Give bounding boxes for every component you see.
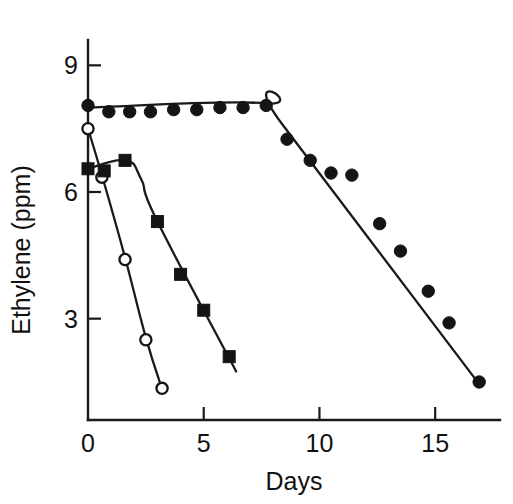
- data-point-filled-circles: [144, 106, 156, 118]
- y-tick-label-9: 9: [64, 51, 78, 79]
- data-point-filled-circles: [260, 99, 272, 111]
- data-point-filled-squares: [119, 154, 131, 166]
- x-tick-label-10: 10: [306, 429, 334, 457]
- data-point-filled-circles: [123, 106, 135, 118]
- y-axis-title: Ethylene (ppm): [7, 165, 35, 335]
- data-point-open-circles: [140, 334, 151, 345]
- data-point-filled-circles: [373, 217, 385, 229]
- x-tick-label-15: 15: [421, 429, 449, 457]
- data-point-filled-squares: [82, 163, 94, 175]
- x-tick-label-0: 0: [81, 429, 95, 457]
- y-tick-label-3: 3: [64, 305, 78, 333]
- series-layer: [82, 91, 486, 394]
- data-point-filled-squares: [151, 216, 163, 228]
- data-point-filled-circles: [325, 167, 337, 179]
- data-point-filled-circles: [103, 106, 115, 118]
- data-point-open-circles: [119, 254, 130, 265]
- series-line-filled-squares: [88, 160, 236, 371]
- data-point-filled-circles: [422, 285, 434, 297]
- data-point-filled-circles: [304, 154, 316, 166]
- data-point-filled-circles: [214, 101, 226, 113]
- data-point-filled-squares: [175, 268, 187, 280]
- x-axis-ticks: 051015: [81, 407, 449, 457]
- data-point-filled-circles: [281, 133, 293, 145]
- data-point-filled-circles: [394, 245, 406, 257]
- data-point-open-circles: [82, 123, 93, 134]
- data-point-filled-circles: [346, 169, 358, 181]
- data-point-filled-circles: [167, 103, 179, 115]
- chart-figure: 369 051015 Days Ethylene (ppm): [0, 0, 513, 504]
- x-tick-label-5: 5: [197, 429, 211, 457]
- ethylene-vs-days-chart: 369 051015 Days Ethylene (ppm): [0, 0, 513, 504]
- data-point-filled-circles: [473, 376, 485, 388]
- data-point-filled-circles: [237, 101, 249, 113]
- y-tick-label-6: 6: [64, 178, 78, 206]
- data-point-filled-squares: [98, 165, 110, 177]
- data-point-filled-circles: [443, 317, 455, 329]
- data-point-filled-squares: [198, 304, 210, 316]
- x-axis-title: Days: [266, 467, 323, 495]
- data-point-filled-circles: [191, 103, 203, 115]
- axes-group: [88, 40, 500, 420]
- y-axis-ticks: 369: [64, 51, 101, 332]
- data-point-open-circles: [156, 383, 167, 394]
- data-point-filled-squares: [223, 351, 235, 363]
- data-point-filled-circles: [82, 99, 94, 111]
